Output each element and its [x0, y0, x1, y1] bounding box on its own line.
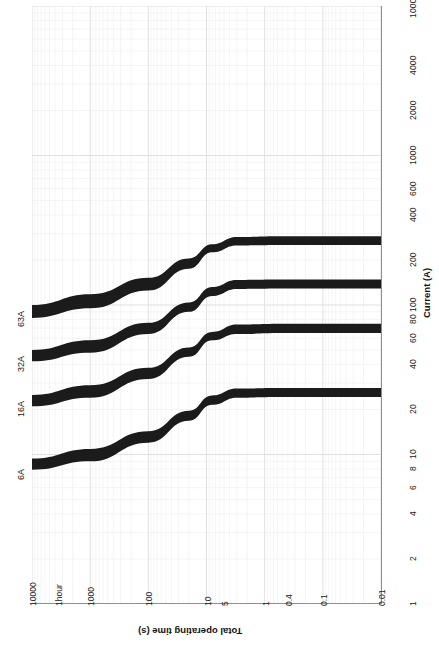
- time-tick-0.01: 0.01: [377, 589, 387, 606]
- time-tick-0.4: 0.4: [284, 594, 294, 606]
- time-tick-1: 1: [261, 601, 271, 606]
- time-tick-5: 5: [220, 601, 230, 606]
- current-tick-4: 4: [408, 511, 418, 516]
- current-tick-1000: 1000: [408, 145, 418, 165]
- time-axis-title: Total operating time (s): [138, 626, 242, 637]
- band-6A: [32, 388, 381, 470]
- current-tick-4000: 4000: [408, 55, 418, 75]
- current-tick-200: 200: [408, 252, 418, 267]
- time-tick-10000: 10000: [28, 582, 38, 606]
- time-tick-1000: 1000: [86, 587, 96, 606]
- time-tick-10: 10: [203, 597, 213, 606]
- current-tick-400: 400: [408, 207, 418, 222]
- current-tick-1: 1: [408, 601, 418, 606]
- band-32A: [32, 280, 381, 362]
- plot-area: [32, 6, 381, 604]
- current-tick-2000: 2000: [408, 100, 418, 120]
- current-tick-10: 10: [408, 449, 418, 459]
- current-tick-10000: 10000: [408, 0, 418, 18]
- current-tick-600: 600: [408, 181, 418, 196]
- curve-label-63A: 63A: [16, 311, 26, 327]
- curve-label-16A: 16A: [16, 401, 26, 417]
- current-axis-title: Current (A): [421, 268, 432, 318]
- curve-label-6A: 6A: [16, 469, 26, 480]
- current-tick-80: 80: [408, 314, 418, 324]
- current-tick-100: 100: [408, 297, 418, 312]
- time-tick-0.1: 0.1: [319, 594, 329, 606]
- tripping-curve-chart: 1246810204060801002004006001000200040001…: [0, 0, 439, 651]
- time-tick-100: 100: [144, 592, 154, 606]
- curve-label-32A: 32A: [16, 356, 26, 372]
- current-tick-6: 6: [408, 485, 418, 490]
- time-tick-1hour: 1hour: [54, 584, 64, 606]
- current-tick-60: 60: [408, 333, 418, 343]
- current-tick-40: 40: [408, 359, 418, 369]
- current-tick-8: 8: [408, 466, 418, 471]
- current-axis-line: [381, 6, 382, 604]
- current-tick-20: 20: [408, 404, 418, 414]
- current-tick-2: 2: [408, 556, 418, 561]
- band-63A: [32, 236, 381, 318]
- curve-bands-layer: [32, 6, 381, 604]
